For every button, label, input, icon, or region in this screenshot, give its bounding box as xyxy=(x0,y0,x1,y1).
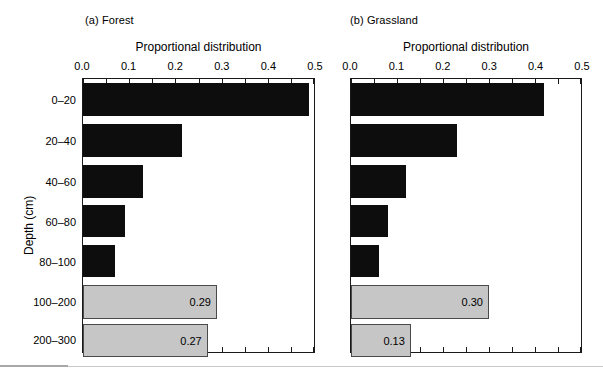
x-tick-grassland-0.45-top xyxy=(558,79,559,84)
y-tick-label-forest-4: 80–100 xyxy=(39,256,76,268)
x-tick-grassland-0.15-bottom xyxy=(420,347,421,352)
x-tick-grassland-0.30-bottom xyxy=(489,347,490,352)
x-tick-forest-0.50-top xyxy=(313,79,314,84)
bar-forest-0-20 xyxy=(83,83,309,116)
bar-value-label-grassland-6: 0.13 xyxy=(383,335,404,347)
bar-value-label-grassland-5: 0.30 xyxy=(462,296,483,308)
x-tick-label-grassland-5: 0.5 xyxy=(574,60,589,72)
x-tick-grassland-0.50-bottom xyxy=(580,347,581,352)
y-axis-title: Depth (cm) xyxy=(22,196,36,255)
plot-area-forest: 0.290.27 xyxy=(82,78,315,353)
x-axis-title-grassland: Proportional distribution xyxy=(350,40,582,54)
y-tick-label-forest-1: 20–40 xyxy=(45,135,76,147)
bar-grassland-0-20 xyxy=(351,83,544,116)
x-tick-grassland-0.35-bottom xyxy=(512,347,513,352)
x-tick-grassland-0.50-top xyxy=(580,79,581,84)
x-tick-forest-0.30-bottom xyxy=(222,347,223,352)
y-tick-label-forest-6: 200–300 xyxy=(33,334,76,346)
bar-forest-60-80 xyxy=(83,205,125,237)
x-tick-label-forest-5: 0.5 xyxy=(307,60,322,72)
x-tick-grassland-0.40-bottom xyxy=(535,347,536,352)
x-tick-label-grassland-3: 0.3 xyxy=(482,60,497,72)
x-tick-label-grassland-2: 0.2 xyxy=(435,60,450,72)
x-tick-forest-0.35-bottom xyxy=(245,347,246,352)
y-tick-label-forest-3: 60–80 xyxy=(45,216,76,228)
x-tick-label-forest-0: 0.0 xyxy=(74,60,89,72)
bar-grassland-80-100 xyxy=(351,245,379,277)
bar-forest-20-40 xyxy=(83,124,182,157)
bar-grassland-20-40 xyxy=(351,124,457,157)
x-tick-forest-0.40-bottom xyxy=(268,347,269,352)
x-tick-label-forest-4: 0.4 xyxy=(261,60,276,72)
y-tick-label-forest-0: 0–20 xyxy=(52,94,76,106)
x-tick-label-grassland-0: 0.0 xyxy=(342,60,357,72)
footer-divider-accent xyxy=(0,365,68,367)
x-tick-label-grassland-1: 0.1 xyxy=(389,60,404,72)
bar-forest-80-100 xyxy=(83,245,115,277)
bar-value-label-forest-6: 0.27 xyxy=(180,335,201,347)
x-tick-grassland-0.20-bottom xyxy=(443,347,444,352)
x-tick-forest-0.50-bottom xyxy=(313,347,314,352)
figure-canvas: (a) Forest Proportional distribution Dep… xyxy=(0,0,603,373)
bar-grassland-40-60 xyxy=(351,165,406,198)
x-axis-title-forest: Proportional distribution xyxy=(82,40,315,54)
x-tick-grassland-0.25-bottom xyxy=(466,347,467,352)
bar-value-label-forest-5: 0.29 xyxy=(190,296,211,308)
x-tick-label-grassland-4: 0.4 xyxy=(528,60,543,72)
x-tick-grassland-0.45-bottom xyxy=(558,347,559,352)
x-tick-label-forest-1: 0.1 xyxy=(121,60,136,72)
x-tick-label-forest-2: 0.2 xyxy=(168,60,183,72)
panel-title-forest: (a) Forest xyxy=(85,14,134,26)
y-tick-label-forest-5: 100–200 xyxy=(33,296,76,308)
bar-forest-40-60 xyxy=(83,165,143,198)
panel-title-grassland: (b) Grassland xyxy=(350,14,418,26)
plot-area-grassland: 0.300.13 xyxy=(350,78,582,353)
panel-forest: (a) Forest Proportional distribution Dep… xyxy=(0,0,330,373)
y-tick-label-forest-2: 40–60 xyxy=(45,176,76,188)
panel-grassland: (b) Grassland Proportional distribution … xyxy=(330,0,603,373)
x-tick-label-forest-3: 0.3 xyxy=(214,60,229,72)
bar-grassland-60-80 xyxy=(351,205,388,237)
footer-divider xyxy=(0,366,603,367)
x-tick-forest-0.45-bottom xyxy=(291,347,292,352)
